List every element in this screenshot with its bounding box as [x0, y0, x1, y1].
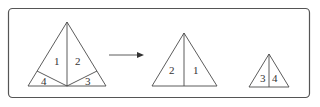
- left-label-4: 4: [41, 75, 47, 87]
- arrow-right-icon: [109, 52, 144, 58]
- left-label-1: 1: [54, 55, 60, 67]
- frame-border: [9, 9, 310, 98]
- middle-label-2: 2: [169, 64, 175, 76]
- right-triangle: [249, 54, 289, 87]
- right-label-3: 3: [260, 72, 266, 84]
- left-label-3: 3: [85, 75, 91, 87]
- left-label-2: 2: [75, 55, 81, 67]
- left-triangle: [28, 22, 106, 86]
- right-label-4: 4: [272, 72, 278, 84]
- diagram-canvas: 1 2 3 4 2 1 3 4: [0, 0, 320, 107]
- middle-triangle: [152, 33, 217, 86]
- middle-label-1: 1: [193, 64, 199, 76]
